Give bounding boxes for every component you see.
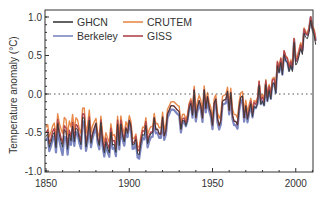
y-tick-label: -1.0 — [25, 166, 43, 177]
y-tick-label: 1.0 — [28, 12, 42, 23]
legend-label-crutem: CRUTEM — [147, 16, 192, 28]
legend-label-berkeley: Berkeley — [77, 30, 119, 42]
x-tick-label: 1900 — [118, 178, 141, 189]
x-axis: 1850190019502000 — [35, 168, 313, 189]
legend: GHCNCRUTEMBerkeleyGISS — [53, 16, 192, 42]
x-tick-label: 2000 — [285, 178, 308, 189]
legend-label-ghcn: GHCN — [77, 16, 108, 28]
y-tick-label: -0.5 — [25, 127, 43, 138]
temperature-anomaly-chart: 1.00.50.0-0.5-1.0 1850190019502000 Tempe… — [0, 0, 322, 199]
x-tick-label: 1950 — [201, 178, 224, 189]
y-tick-label: 0.0 — [28, 89, 42, 100]
y-axis-label: Temperature anomaly (°C) — [8, 36, 19, 153]
y-tick-label: 0.5 — [28, 50, 42, 61]
x-tick-label: 1850 — [35, 178, 58, 189]
legend-label-giss: GISS — [147, 30, 172, 42]
